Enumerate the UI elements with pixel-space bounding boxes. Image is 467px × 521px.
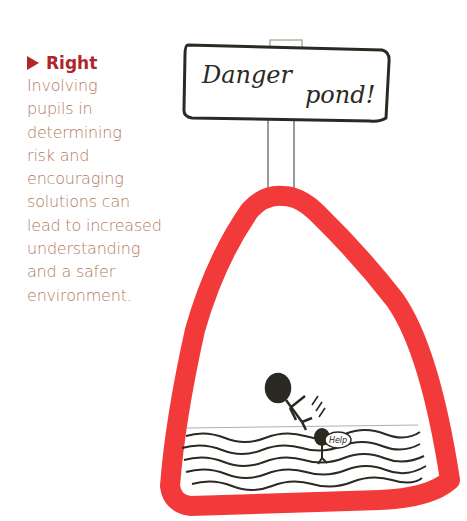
water-surface-line <box>186 425 418 428</box>
sign-text-pond: pond! <box>305 81 375 109</box>
danger-pond-drawing: Danger pond! Help <box>0 0 467 521</box>
water-waves-icon <box>182 430 426 490</box>
falling-person-icon <box>266 374 312 430</box>
help-text: Help <box>329 436 347 445</box>
motion-lines <box>312 396 325 417</box>
sign-text-danger: Danger <box>201 61 294 89</box>
danger-sign: Danger pond! <box>184 45 389 121</box>
help-speech-bubble: Help <box>325 432 351 448</box>
drowning-person-icon <box>315 429 329 464</box>
